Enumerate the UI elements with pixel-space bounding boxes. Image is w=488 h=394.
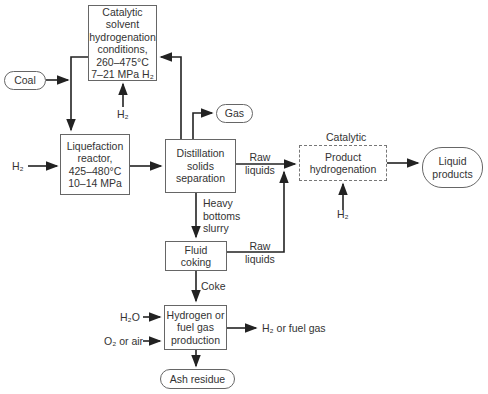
node-text: Coal [14,74,36,87]
catalytic-caption: Catalytic [326,131,366,144]
node-text: Product [325,151,361,164]
node-text: Hydrogen or [167,309,225,322]
raw-liquids-label-2: Raw liquids [245,240,275,265]
product-hydrogenation-box: Product hydrogenation [299,145,387,181]
connector-arrows [0,0,488,394]
h2-catalytic-label: H₂ [117,108,129,121]
node-text: Liquid [438,155,466,168]
node-text: coking [181,256,211,269]
process-flow-diagram: Catalytic solvent hydrogenation conditio… [0,0,488,394]
node-text: hydrogenation [310,163,377,176]
node-text: fuel gas [177,321,214,334]
liquefaction-reactor-box: Liquefaction reactor, 425–480°C 10–14 MP… [60,134,130,195]
node-text: 260–475°C [96,56,149,69]
h2o-label: H₂O [120,311,140,324]
gas-output: Gas [216,104,253,123]
node-text: conditions, [97,43,147,56]
o2-air-label: O₂ or air [104,335,143,348]
ash-residue-output: Ash residue [160,369,235,389]
label-text: Raw [245,151,275,164]
node-text: hydrogenation [89,31,156,44]
node-text: products [432,168,472,181]
node-text: Catalytic [102,6,142,19]
h2-fuel-gas-label: H₂ or fuel gas [262,322,326,335]
node-text: solids [187,160,214,173]
label-text: slurry [203,222,240,235]
distillation-box: Distillation solids separation [165,139,236,193]
liquid-products-output: Liquid products [422,147,483,188]
label-text: liquids [245,253,275,266]
node-text: Ash residue [170,373,225,386]
node-text: reactor, [77,152,112,165]
label-text: bottoms [203,210,240,223]
coke-label: Coke [201,280,226,293]
catalytic-solvent-hydrogenation-box: Catalytic solvent hydrogenation conditio… [88,5,157,81]
coal-input: Coal [4,71,46,90]
label-text: Raw [245,240,275,253]
fluid-coking-box: Fluid coking [165,241,227,271]
node-text: 10–14 MPa [68,177,122,190]
node-text: production [171,334,220,347]
raw-liquids-label-1: Raw liquids [245,151,275,176]
node-text: separation [176,172,225,185]
heavy-bottoms-label: Heavy bottoms slurry [203,197,240,235]
label-text: Heavy [203,197,240,210]
node-text: Liquefaction [67,140,124,153]
h2-liquefaction-label: H₂ [12,160,24,173]
hydrogen-production-box: Hydrogen or fuel gas production [164,305,227,350]
node-text: Gas [225,107,244,120]
h2-product-label: H₂ [337,208,349,221]
label-text: liquids [245,164,275,177]
node-text: 7–21 MPa H₂ [91,68,153,81]
node-text: 425–480°C [69,165,122,178]
node-text: solvent [106,18,139,31]
node-text: Distillation [177,147,225,160]
node-text: Fluid [185,244,208,257]
